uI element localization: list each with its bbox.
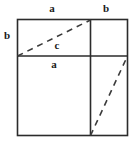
outer-square <box>18 20 128 136</box>
label-a-top: a <box>45 3 59 14</box>
label-b-top: b <box>99 3 113 14</box>
dashed-hypotenuse-right <box>91 56 128 136</box>
label-c-hypotenuse: c <box>50 40 64 51</box>
pythagorean-diagram: a b b c a <box>0 0 136 147</box>
label-b-left: b <box>0 30 14 41</box>
diagram-canvas <box>0 0 136 147</box>
label-a-middle: a <box>47 59 61 70</box>
